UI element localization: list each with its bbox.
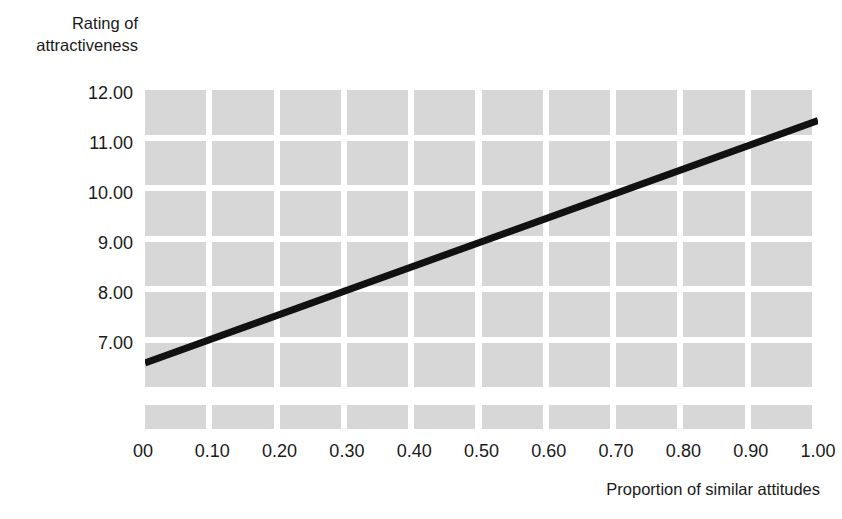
grid-block: [212, 90, 273, 135]
grid-block: [347, 242, 408, 287]
grid-block: [549, 141, 610, 186]
grid-block: [751, 90, 812, 135]
grid-block: [751, 292, 812, 337]
grid-block: [145, 191, 206, 236]
grid-block: [616, 141, 677, 186]
axis-band-block: [414, 405, 475, 429]
axis-band-block: [347, 405, 408, 429]
grid-block: [751, 242, 812, 287]
axis-band-block: [751, 405, 812, 429]
x-tick-label: 1.00: [800, 440, 835, 462]
axis-band-block: [145, 405, 206, 429]
y-tick-label: 11.00: [0, 134, 133, 152]
grid-block: [280, 292, 341, 337]
grid-block: [280, 343, 341, 388]
axis-band-block: [482, 405, 543, 429]
x-axis-tick-labels: 000.100.200.300.400.500.600.700.800.901.…: [0, 440, 842, 466]
x-tick-label: 0.80: [666, 440, 701, 462]
grid-block: [414, 191, 475, 236]
plot-area: [145, 90, 818, 393]
grid-block: [280, 90, 341, 135]
grid-block: [683, 141, 744, 186]
grid-block: [751, 141, 812, 186]
x-tick-label: 0.30: [329, 440, 364, 462]
grid-block: [616, 242, 677, 287]
grid-block: [482, 292, 543, 337]
grid-block: [347, 191, 408, 236]
x-tick-label: 0.10: [195, 440, 230, 462]
x-tick-label: 0.70: [599, 440, 634, 462]
grid-block: [549, 343, 610, 388]
grid-block: [616, 90, 677, 135]
grid-block: [280, 242, 341, 287]
grid-block: [414, 242, 475, 287]
axis-band-block: [212, 405, 273, 429]
grid-block: [145, 292, 206, 337]
grid-block: [212, 242, 273, 287]
x-tick-label: 0.60: [531, 440, 566, 462]
grid-block: [482, 343, 543, 388]
axis-band-block: [683, 405, 744, 429]
grid-block: [482, 141, 543, 186]
x-tick-label: 0.40: [397, 440, 432, 462]
grid-block: [616, 292, 677, 337]
grid-block: [482, 90, 543, 135]
grid-block: [414, 90, 475, 135]
grid-block: [145, 141, 206, 186]
x-tick-label: 0.90: [733, 440, 768, 462]
x-tick-label: 00: [133, 440, 153, 462]
y-tick-label: 7.00: [0, 334, 133, 352]
grid-block: [280, 191, 341, 236]
grid-block: [683, 292, 744, 337]
axis-band-block: [280, 405, 341, 429]
grid-block: [145, 343, 206, 388]
y-tick-label: 8.00: [0, 284, 133, 302]
y-tick-label: 10.00: [0, 184, 133, 202]
grid-block: [145, 242, 206, 287]
x-tick-label: 0.50: [464, 440, 499, 462]
grid-block: [683, 242, 744, 287]
grid-block: [482, 191, 543, 236]
grid-block: [347, 141, 408, 186]
grid-block: [482, 242, 543, 287]
chart-figure: Rating of attractiveness 12.0011.0010.00…: [0, 0, 842, 519]
grid-block: [280, 141, 341, 186]
grid-block: [751, 191, 812, 236]
grid-block: [549, 292, 610, 337]
grid-block: [145, 90, 206, 135]
grid-block: [212, 191, 273, 236]
grid-block: [683, 90, 744, 135]
grid-block: [212, 141, 273, 186]
grid-block: [414, 343, 475, 388]
grid-block: [414, 292, 475, 337]
grid-block: [549, 242, 610, 287]
grid-block: [683, 191, 744, 236]
axis-band-block: [616, 405, 677, 429]
grid-block: [549, 191, 610, 236]
x-tick-label: 0.20: [262, 440, 297, 462]
grid-block: [347, 292, 408, 337]
x-axis-band: [145, 405, 818, 429]
grid-block: [347, 343, 408, 388]
y-tick-label: 12.00: [0, 84, 133, 102]
grid-block: [683, 343, 744, 388]
grid-block: [616, 191, 677, 236]
y-tick-label: 9.00: [0, 234, 133, 252]
grid-block: [751, 343, 812, 388]
grid-block: [212, 292, 273, 337]
grid-block: [347, 90, 408, 135]
grid-block: [616, 343, 677, 388]
grid-block: [549, 90, 610, 135]
axis-band-block: [549, 405, 610, 429]
x-axis-title: Proportion of similar attitudes: [606, 478, 820, 500]
grid-block: [414, 141, 475, 186]
grid-block: [212, 343, 273, 388]
